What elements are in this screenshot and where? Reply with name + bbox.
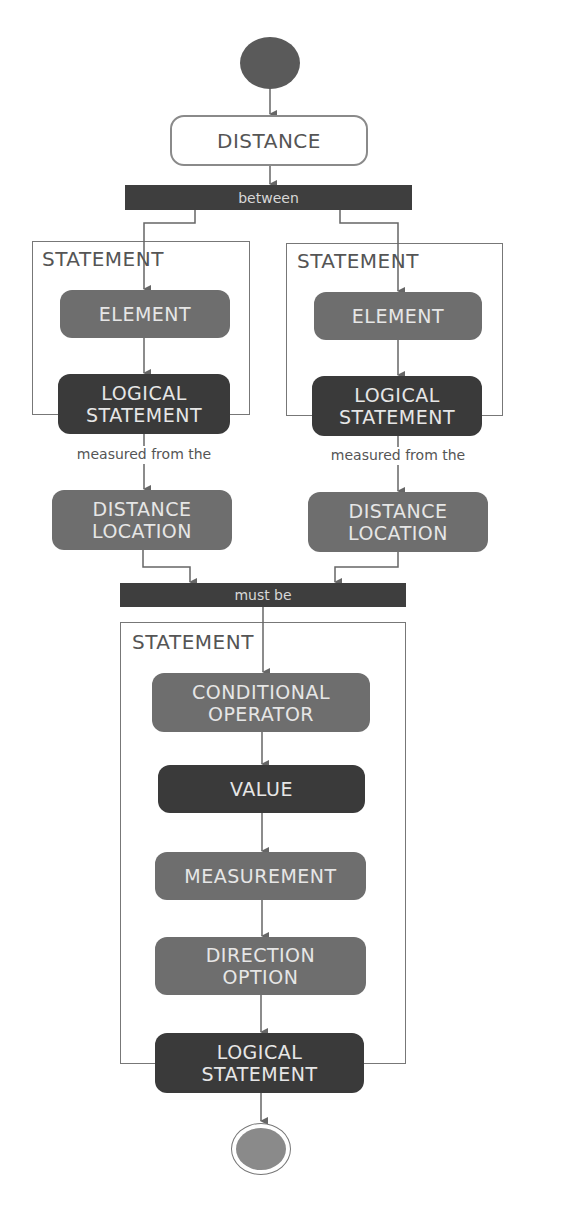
right-statement-title: STATEMENT (297, 249, 419, 273)
bottom-logical-statement-label: LOGICAL STATEMENT (185, 1041, 334, 1085)
direction-option-node: DIRECTION OPTION (155, 937, 366, 995)
distance-node: DISTANCE (170, 115, 368, 166)
end-node-inner (236, 1128, 286, 1170)
measurement-label: MEASUREMENT (184, 865, 336, 887)
fork-bar-label: between (238, 190, 299, 206)
bottom-logical-statement-node: LOGICAL STATEMENT (155, 1033, 364, 1093)
start-node (240, 37, 300, 89)
right-distance-location-label: DISTANCE LOCATION (338, 500, 458, 544)
conditional-operator-node: CONDITIONAL OPERATOR (152, 673, 370, 732)
end-node (231, 1123, 291, 1175)
value-node: VALUE (158, 765, 365, 813)
left-distance-location-label: DISTANCE LOCATION (82, 498, 202, 542)
right-logical-statement-label: LOGICAL STATEMENT (334, 384, 460, 428)
right-element-node: ELEMENT (314, 292, 482, 340)
right-element-label: ELEMENT (352, 305, 444, 327)
join-bar-must-be: must be (120, 583, 406, 607)
value-label: VALUE (230, 778, 293, 800)
measurement-node: MEASUREMENT (155, 852, 366, 900)
distance-label: DISTANCE (217, 130, 321, 152)
join-bar-label: must be (234, 587, 291, 603)
right-edge-label-measured: measured from the (308, 447, 488, 463)
left-logical-statement-label: LOGICAL STATEMENT (80, 382, 208, 426)
bottom-statement-title: STATEMENT (132, 630, 254, 654)
left-element-label: ELEMENT (99, 303, 191, 325)
direction-option-label: DIRECTION OPTION (195, 944, 326, 988)
left-edge-label-measured: measured from the (54, 446, 234, 462)
left-element-node: ELEMENT (60, 290, 230, 338)
fork-bar-between: between (125, 185, 412, 210)
left-statement-title: STATEMENT (42, 247, 164, 271)
right-distance-location-node: DISTANCE LOCATION (308, 492, 488, 552)
right-logical-statement-node: LOGICAL STATEMENT (312, 376, 482, 436)
left-logical-statement-node: LOGICAL STATEMENT (58, 374, 230, 434)
conditional-operator-label: CONDITIONAL OPERATOR (172, 681, 350, 725)
left-distance-location-node: DISTANCE LOCATION (52, 490, 232, 550)
